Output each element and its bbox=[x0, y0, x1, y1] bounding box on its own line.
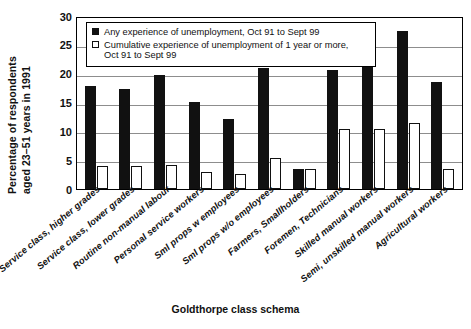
empty-square-swatch-icon bbox=[92, 41, 99, 48]
legend-entry-any-experience: Any experience of unemployment, Oct 91 t… bbox=[91, 27, 371, 38]
y-axis-tick-label: 20 bbox=[46, 69, 72, 80]
bar-cumulative-experience bbox=[409, 123, 420, 189]
y-axis-tick-label: 0 bbox=[46, 185, 72, 196]
y-axis-tick-label: 10 bbox=[46, 127, 72, 138]
bar-any-experience bbox=[85, 86, 96, 189]
y-axis-title-line-2: aged 23–51 years in 1991 bbox=[20, 66, 32, 194]
y-axis-tick-label: 30 bbox=[46, 12, 72, 23]
filled-square-swatch-icon bbox=[92, 28, 99, 35]
bar-any-experience bbox=[431, 82, 442, 189]
bar-cumulative-experience bbox=[270, 158, 281, 189]
bar-any-experience bbox=[258, 68, 269, 189]
bar-any-experience bbox=[189, 102, 200, 189]
bar-chart-figure: Percentage of respondents aged 23–51 yea… bbox=[0, 0, 471, 329]
bar-group bbox=[425, 18, 460, 189]
legend-entry-label: Cumulative experience of unemployment of… bbox=[104, 40, 348, 61]
bar-cumulative-experience bbox=[166, 165, 177, 190]
bar-cumulative-experience bbox=[97, 166, 108, 189]
y-axis-title-line-1: Percentage of respondents bbox=[6, 56, 18, 194]
y-axis-tick-label: 15 bbox=[46, 98, 72, 109]
y-axis-tick-labels: 302520151050 bbox=[42, 0, 72, 329]
y-axis-tick-label: 5 bbox=[46, 156, 72, 167]
legend-entry-label: Any experience of unemployment, Oct 91 t… bbox=[104, 27, 320, 38]
bar-group bbox=[391, 18, 426, 189]
x-axis-category-labels: Service class, higher gradesService clas… bbox=[76, 192, 463, 292]
bar-cumulative-experience bbox=[374, 129, 385, 189]
bar-any-experience bbox=[154, 75, 165, 189]
bar-any-experience bbox=[119, 89, 130, 189]
y-axis-tick-label: 25 bbox=[46, 40, 72, 51]
bar-cumulative-experience bbox=[131, 166, 142, 189]
bar-cumulative-experience bbox=[339, 129, 350, 189]
y-axis-title: Percentage of respondents aged 23–51 yea… bbox=[2, 14, 42, 194]
legend-entry-cumulative-experience: Cumulative experience of unemployment of… bbox=[91, 40, 371, 61]
bar-any-experience bbox=[223, 119, 234, 189]
bar-any-experience bbox=[397, 31, 408, 189]
legend: Any experience of unemployment, Oct 91 t… bbox=[86, 22, 376, 67]
x-axis-title: Goldthorpe class schema bbox=[0, 303, 471, 315]
bar-any-experience bbox=[327, 70, 338, 189]
